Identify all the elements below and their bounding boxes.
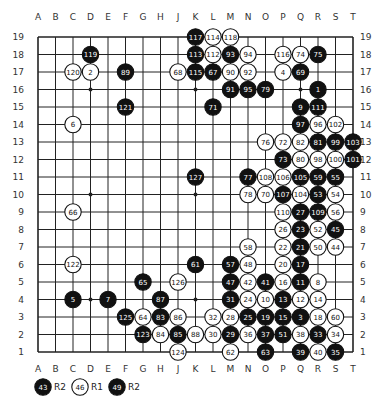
white-stone: 102 <box>327 116 343 132</box>
black-stone: 31 <box>222 291 238 307</box>
move-number: 31 <box>226 296 235 304</box>
move-number: 86 <box>174 314 183 322</box>
black-stone: 53 <box>310 186 326 202</box>
white-stone: 12 <box>292 291 308 307</box>
move-number: 33 <box>314 331 323 339</box>
move-number: 120 <box>66 69 79 77</box>
move-number: 81 <box>314 139 323 147</box>
move-number: 125 <box>119 314 132 322</box>
row-labels-left: 19181716151413121110987654321 <box>13 32 25 357</box>
move-number: 40 <box>314 349 323 357</box>
white-stone: 76 <box>257 134 273 150</box>
move-number: 6 <box>71 121 76 129</box>
column-label: J <box>176 12 180 22</box>
white-stone: 8 <box>310 274 326 290</box>
move-number: 55 <box>331 174 340 182</box>
column-label: R <box>315 12 321 22</box>
move-number: 66 <box>69 209 78 217</box>
move-number: 124 <box>171 349 185 357</box>
white-stone: 70 <box>257 186 273 202</box>
move-number: 117 <box>189 34 202 42</box>
black-stone: 41 <box>257 274 273 290</box>
row-label: 15 <box>13 102 24 112</box>
legend-label: R2 <box>128 382 140 392</box>
column-label: M <box>227 364 235 374</box>
move-number: 54 <box>331 191 340 199</box>
white-stone: 108 <box>257 169 273 185</box>
move-number: 65 <box>139 279 148 287</box>
white-stone: 90 <box>222 64 238 80</box>
row-label: 11 <box>360 172 371 182</box>
move-number: 73 <box>279 156 288 164</box>
move-number: 113 <box>189 51 202 59</box>
black-stone: 3 <box>292 309 308 325</box>
move-number: 61 <box>191 261 200 269</box>
white-stone: 28 <box>222 309 238 325</box>
black-stone: 101 <box>345 151 361 167</box>
move-number: 74 <box>296 51 305 59</box>
white-stone: 94 <box>240 46 256 62</box>
white-stone: 110 <box>275 204 291 220</box>
white-stone: 96 <box>310 116 326 132</box>
move-number: 105 <box>294 174 307 182</box>
black-stone: 105 <box>292 169 308 185</box>
move-number: 119 <box>84 51 97 59</box>
star-point <box>194 193 198 197</box>
black-stone: 59 <box>310 169 326 185</box>
white-stone: 20 <box>275 256 291 272</box>
black-stone: 115 <box>187 64 203 80</box>
black-stone: 23 <box>292 221 308 237</box>
white-stone: 44 <box>327 239 343 255</box>
move-number: 57 <box>226 261 235 269</box>
move-number: 32 <box>209 314 218 322</box>
column-label: D <box>87 364 94 374</box>
move-number: 90 <box>226 69 235 77</box>
white-stone: 2 <box>82 64 98 80</box>
move-number: 63 <box>261 349 270 357</box>
black-stone: 13 <box>275 291 291 307</box>
column-label: K <box>193 364 200 374</box>
go-board: ABCDEFGHJKLMNOPQRST ABCDEFGHJKLMNOPQRST … <box>0 0 382 410</box>
move-number: 67 <box>209 69 218 77</box>
move-number: 62 <box>226 349 235 357</box>
row-label: 19 <box>13 32 25 42</box>
white-stone: 82 <box>292 134 308 150</box>
move-number: 111 <box>311 104 324 112</box>
move-number: 26 <box>279 226 288 234</box>
white-stone: 30 <box>205 326 221 342</box>
row-label: 10 <box>13 190 25 200</box>
move-number: 99 <box>331 139 340 147</box>
white-stone: 92 <box>240 64 256 80</box>
column-label: N <box>245 12 252 22</box>
white-stone: 80 <box>292 151 308 167</box>
row-label: 16 <box>360 85 372 95</box>
move-number: 7 <box>106 296 110 304</box>
row-label: 9 <box>18 207 24 217</box>
black-stone: 121 <box>117 99 133 115</box>
white-stone: 22 <box>275 239 291 255</box>
move-number: 118 <box>224 34 237 42</box>
white-stone: 120 <box>65 64 81 80</box>
white-stone: 24 <box>240 291 256 307</box>
white-stone: 84 <box>152 326 168 342</box>
row-label: 9 <box>360 207 366 217</box>
move-number: 106 <box>276 174 290 182</box>
move-number: 114 <box>206 34 220 42</box>
move-number: 116 <box>276 51 290 59</box>
black-stone: 27 <box>292 204 308 220</box>
row-label: 2 <box>18 330 24 340</box>
column-label: C <box>70 12 76 22</box>
row-labels-right: 19181716151413121110987654321 <box>360 32 372 357</box>
white-stone: 106 <box>275 169 291 185</box>
white-stone: 118 <box>222 29 238 45</box>
move-number: 36 <box>244 331 253 339</box>
move-number: 23 <box>296 226 305 234</box>
move-number: 22 <box>279 244 288 252</box>
column-label: L <box>210 364 215 374</box>
move-number: 109 <box>311 209 324 217</box>
black-stone: 63 <box>257 344 273 360</box>
white-stone: 74 <box>292 46 308 62</box>
black-stone: 21 <box>292 239 308 255</box>
move-number: 101 <box>346 156 359 164</box>
white-stone: 66 <box>65 204 81 220</box>
